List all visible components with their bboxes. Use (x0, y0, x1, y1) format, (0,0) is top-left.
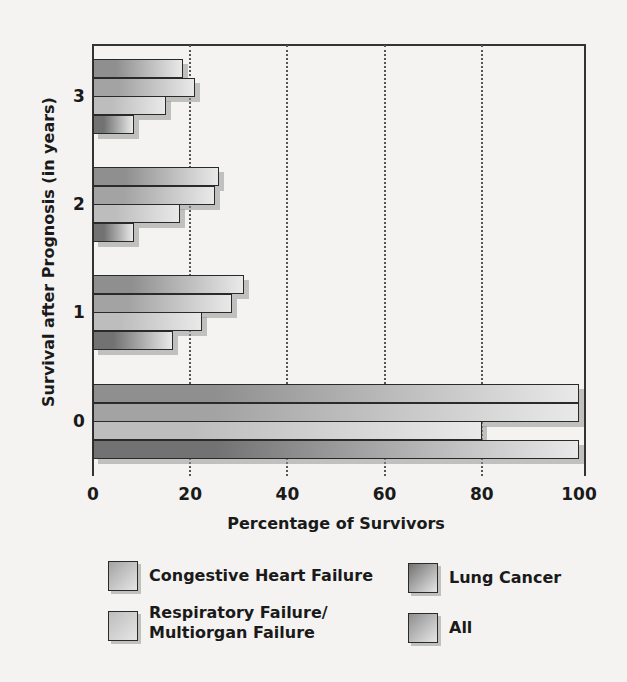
bar-year3-respiratory-failure-multiorgan-failure (93, 96, 166, 115)
bar-year1-lung-cancer (93, 331, 173, 350)
bar-year0-congestive-heart-failure (93, 403, 579, 422)
x-tick-80: 80 (470, 484, 494, 504)
bar-year2-respiratory-failure-multiorgan-failure (93, 204, 180, 223)
x-tick-40: 40 (276, 484, 300, 504)
survival-bar-chart: 020406080100 0123 Percentage of Survivor… (0, 0, 627, 682)
x-axis-label: Percentage of Survivors (227, 514, 445, 533)
y-tick-0: 0 (73, 411, 85, 431)
bar-year1-congestive-heart-failure (93, 294, 232, 313)
bar-year2-congestive-heart-failure (93, 186, 215, 205)
bar-year0-all (93, 384, 579, 403)
legend-swatch-rf-mof (108, 611, 138, 641)
legend-label-lung-cancer: Lung Cancer (449, 568, 561, 588)
bar-year2-lung-cancer (93, 223, 134, 242)
legend-swatch-all (408, 613, 438, 643)
bar-year3-lung-cancer (93, 115, 134, 134)
plot-top-border (92, 44, 586, 46)
plot-right-border (584, 44, 586, 476)
bar-year3-congestive-heart-failure (93, 78, 195, 97)
legend-swatch-chf (108, 561, 138, 591)
bar-year1-respiratory-failure-multiorgan-failure (93, 312, 202, 331)
bar-year2-all (93, 167, 219, 186)
y-axis-label: Survival after Prognosis (in years) (39, 97, 58, 407)
legend-label-rf-mof: Respiratory Failure/ Multiorgan Failure (149, 603, 328, 643)
bar-year0-respiratory-failure-multiorgan-failure (93, 421, 482, 440)
y-tick-2: 2 (73, 194, 85, 214)
legend-item-chf: Congestive Heart Failure (108, 561, 373, 591)
legend-label-all: All (449, 618, 472, 638)
bar-year1-all (93, 275, 244, 294)
legend-item-all: All (408, 613, 472, 643)
bar-year0-lung-cancer (93, 440, 579, 459)
legend-item-lung-cancer: Lung Cancer (408, 563, 561, 593)
bar-year3-all (93, 59, 183, 78)
legend-item-rf-mof: Respiratory Failure/ Multiorgan Failure (108, 611, 328, 643)
legend-swatch-lung-cancer (408, 563, 438, 593)
y-tick-1: 1 (73, 302, 85, 322)
x-tick-60: 60 (373, 484, 397, 504)
y-tick-3: 3 (73, 86, 85, 106)
x-tick-0: 0 (87, 484, 99, 504)
x-tick-100: 100 (561, 484, 597, 504)
x-tick-20: 20 (178, 484, 202, 504)
legend-label-chf: Congestive Heart Failure (149, 566, 373, 586)
